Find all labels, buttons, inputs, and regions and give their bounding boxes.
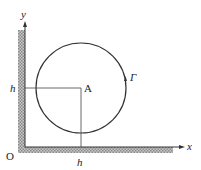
- x-axis-arrow-icon: [179, 145, 185, 149]
- origin-label: O: [6, 150, 14, 162]
- y-axis-arrow-icon: [23, 21, 27, 27]
- wall-horizontal-hatch: [18, 147, 173, 153]
- curve-gamma-label: Γ: [129, 71, 137, 83]
- x-axis-label: x: [186, 140, 192, 152]
- h-bottom-label: h: [77, 156, 83, 168]
- center-label: A: [84, 82, 92, 94]
- diagram: y x O A h h Γ: [0, 0, 201, 170]
- y-axis-label: y: [20, 8, 26, 20]
- wall-vertical-hatch: [18, 30, 25, 153]
- h-left-label: h: [10, 82, 16, 94]
